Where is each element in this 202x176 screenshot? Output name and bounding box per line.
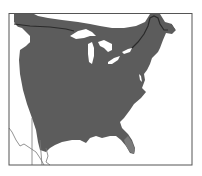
- range-map: [0, 0, 202, 176]
